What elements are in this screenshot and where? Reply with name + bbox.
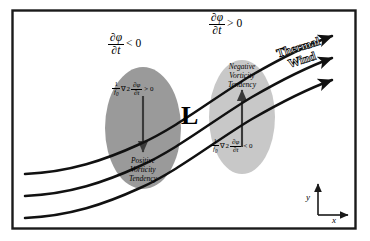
right-vorticity-tendency-equation: 1 f0 ∇2 ∂φ ∂t < 0 [211,138,253,154]
left-eq-coefficient: 1 f0 [112,81,120,97]
left-eq-laplacian: ∇2 [120,86,131,93]
axis-key-x-label: x [332,216,336,225]
right-eq-relation: < 0 [241,143,252,150]
left-height-tendency-annotation: ∂φ ∂t < 0 [108,32,141,56]
right-tendency-relation: > 0 [225,18,242,30]
right-tendency-fraction: ∂φ ∂t [209,12,225,36]
negative-vorticity-tendency-label: Negative Vorticity Tendency [211,62,273,89]
right-eq-coefficient: 1 f0 [211,138,219,154]
left-tendency-fraction: ∂φ ∂t [108,32,124,56]
right-eq-fraction: ∂φ ∂t [230,139,241,154]
left-vorticity-tendency-equation: 1 f0 ∇2 ∂φ ∂t > 0 [112,81,154,97]
diagram-canvas: ∂φ ∂t < 0 ∂φ ∂t > 0 1 f0 ∇2 ∂φ ∂t > 0 1 … [0,0,370,241]
right-height-tendency-annotation: ∂φ ∂t > 0 [209,12,242,36]
axis-key-y-label: y [306,193,310,202]
right-eq-laplacian: ∇2 [219,143,230,150]
left-tendency-relation: < 0 [124,38,141,50]
positive-vorticity-tendency-label: Positive Vorticity Tendency [112,156,174,183]
low-pressure-center-label: L [181,103,198,129]
left-eq-fraction: ∂φ ∂t [131,82,142,97]
left-eq-relation: > 0 [142,86,153,93]
